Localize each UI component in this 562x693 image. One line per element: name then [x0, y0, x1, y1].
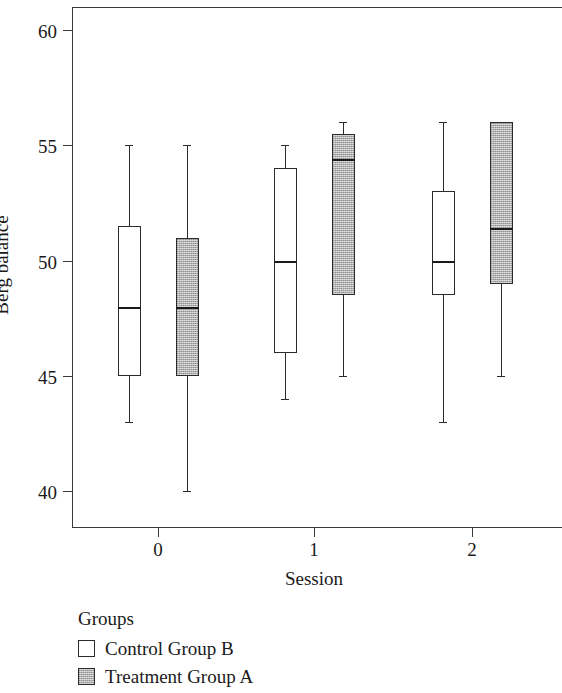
whisker-cap-upper — [125, 145, 133, 146]
y-tick: 55 — [63, 145, 72, 146]
y-tick-label: 55 — [38, 137, 57, 156]
plot-area: 4045505560 012 — [72, 7, 555, 528]
whisker-cap-lower — [183, 491, 191, 492]
whisker-cap-lower — [281, 399, 289, 400]
box-iqr — [432, 191, 455, 295]
whisker-lower — [501, 284, 502, 376]
median-line — [490, 228, 513, 230]
whisker-upper — [129, 145, 130, 226]
median-line — [118, 307, 141, 309]
y-axis-title: Berg balance — [0, 215, 13, 314]
whisker-cap-upper — [281, 145, 289, 146]
whisker-lower — [285, 353, 286, 399]
whisker-upper — [187, 145, 188, 237]
median-line — [176, 307, 199, 309]
y-tick: 50 — [63, 261, 72, 262]
legend-swatch-white — [78, 640, 95, 657]
x-tick — [158, 528, 159, 537]
x-tick-label: 2 — [467, 539, 477, 561]
legend-item[interactable]: Control Group B — [78, 635, 378, 663]
whisker-cap-upper — [439, 122, 447, 123]
whisker-cap-lower — [497, 376, 505, 377]
y-tick: 40 — [63, 491, 72, 492]
x-axis-title: Session — [285, 568, 343, 590]
whisker-upper — [343, 122, 344, 134]
legend-item-label: Treatment Group A — [105, 666, 253, 688]
whisker-upper — [285, 145, 286, 168]
median-line — [432, 261, 455, 263]
whisker-lower — [443, 295, 444, 422]
legend-title: Groups — [78, 608, 378, 631]
whisker-cap-lower — [339, 376, 347, 377]
whisker-cap-upper — [183, 145, 191, 146]
box-iqr — [332, 134, 355, 295]
median-line — [274, 261, 297, 263]
whisker-lower — [129, 376, 130, 422]
legend: Groups Control Group BTreatment Group A — [78, 608, 378, 691]
legend-entries: Control Group BTreatment Group A — [78, 635, 378, 691]
whisker-cap-upper — [339, 122, 347, 123]
whisker-cap-lower — [439, 422, 447, 423]
y-tick: 45 — [63, 376, 72, 377]
whisker-cap-lower — [125, 422, 133, 423]
x-tick-label: 0 — [153, 539, 163, 561]
legend-swatch-gray — [78, 668, 95, 685]
y-tick-label: 50 — [38, 252, 57, 271]
whisker-lower — [187, 376, 188, 491]
whisker-upper — [443, 122, 444, 191]
y-tick-label: 45 — [38, 367, 57, 386]
y-tick: 60 — [63, 30, 72, 31]
legend-item[interactable]: Treatment Group A — [78, 663, 378, 691]
x-tick-label: 1 — [309, 539, 319, 561]
legend-item-label: Control Group B — [105, 638, 234, 660]
y-tick-label: 60 — [38, 22, 57, 41]
y-tick-label: 40 — [38, 483, 57, 502]
box-iqr — [490, 122, 513, 283]
x-tick — [472, 528, 473, 537]
x-tick — [314, 528, 315, 537]
median-line — [332, 159, 355, 161]
box-iqr — [118, 226, 141, 376]
whisker-lower — [343, 295, 344, 376]
